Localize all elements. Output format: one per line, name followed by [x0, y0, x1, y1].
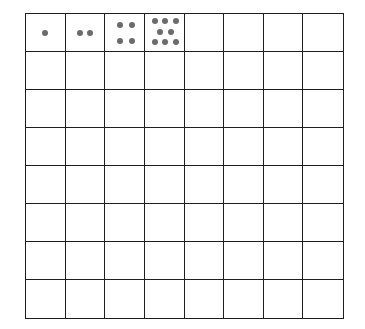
grid-cell: [26, 280, 66, 318]
grid-cell: [145, 166, 185, 204]
grid-cell: [224, 166, 264, 204]
grid-cell: [105, 166, 145, 204]
grid-cell: [66, 166, 106, 204]
grid-cell: [185, 128, 225, 166]
grid-cell: [185, 14, 225, 52]
dot-marker: [173, 39, 179, 45]
grid-cell: [145, 128, 185, 166]
grid-cell: [185, 204, 225, 242]
grid-cell: [185, 52, 225, 90]
grid-cell: [264, 242, 304, 280]
grid-cell: [66, 52, 106, 90]
grid-cell: [224, 204, 264, 242]
grid-cell: [264, 204, 304, 242]
dot-marker: [173, 18, 179, 24]
grid-cell: [185, 166, 225, 204]
grid-cell: [105, 14, 145, 52]
grid-cell: [224, 242, 264, 280]
grid-cell: [26, 242, 66, 280]
grid-cell: [224, 52, 264, 90]
grid-cell: [303, 52, 343, 90]
grid-cell: [303, 280, 343, 318]
grid-cell: [26, 14, 66, 52]
grid-cell: [145, 14, 185, 52]
grid-cell: [145, 280, 185, 318]
grid-cell: [145, 242, 185, 280]
grid-cell: [264, 14, 304, 52]
grid-cell: [26, 52, 66, 90]
grid-cell: [66, 14, 106, 52]
grid-cell: [105, 52, 145, 90]
grid-cell: [145, 204, 185, 242]
dot-marker: [117, 38, 123, 44]
dot-marker: [152, 39, 158, 45]
grid-cell: [26, 204, 66, 242]
grid-cell: [264, 52, 304, 90]
grid-cell: [264, 280, 304, 318]
grid-cell: [66, 204, 106, 242]
dot-marker: [87, 30, 93, 36]
grid-cell: [264, 128, 304, 166]
grid-cell: [66, 90, 106, 128]
grid-cell: [105, 242, 145, 280]
grid-cell: [145, 90, 185, 128]
dot-marker: [157, 29, 163, 35]
grid-cell: [303, 242, 343, 280]
grid-cell: [26, 128, 66, 166]
grid-cell: [66, 280, 106, 318]
grid-cell: [185, 242, 225, 280]
grid-cell: [303, 166, 343, 204]
grid-cell: [185, 280, 225, 318]
grid-cell: [105, 280, 145, 318]
grid-cell: [185, 90, 225, 128]
grid-cell: [105, 128, 145, 166]
grid-cell: [303, 128, 343, 166]
grid-cell: [224, 280, 264, 318]
dot-marker: [152, 18, 158, 24]
dot-marker: [77, 30, 83, 36]
dot-marker: [162, 39, 168, 45]
dot-marker: [168, 29, 174, 35]
grid-cell: [224, 14, 264, 52]
dot-marker: [129, 22, 135, 28]
dot-marker: [129, 38, 135, 44]
grid-cell: [303, 14, 343, 52]
grid-cell: [66, 242, 106, 280]
grid-cell: [105, 90, 145, 128]
grid-cell: [145, 52, 185, 90]
grid-cell: [26, 166, 66, 204]
grid-cell: [303, 204, 343, 242]
grid-cell: [264, 90, 304, 128]
grid-cell: [264, 166, 304, 204]
dot-marker: [117, 22, 123, 28]
grid-cell: [303, 90, 343, 128]
grid-cell: [224, 90, 264, 128]
grid-cell: [105, 204, 145, 242]
dot-marker: [42, 30, 48, 36]
grid-cell: [66, 128, 106, 166]
grid-cell: [26, 90, 66, 128]
dot-grid-board: [25, 13, 344, 319]
dot-marker: [162, 18, 168, 24]
grid-cell: [224, 128, 264, 166]
